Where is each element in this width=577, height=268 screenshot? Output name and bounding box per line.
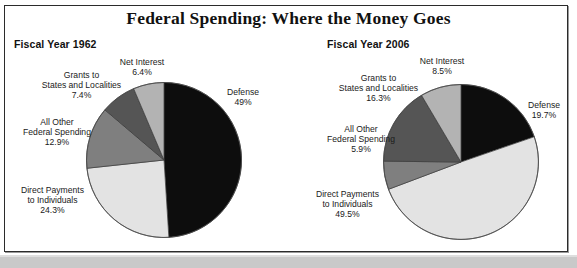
label-2006-direct-payments: Direct Payments to Individuals 49.5% — [303, 189, 392, 220]
label-1962-all-other: All Other Federal Spending 12.9% — [9, 117, 105, 148]
label-2006-net-interest-text: Net Interest — [420, 56, 464, 66]
label-2006-direct-payments-text-1: Direct Payments — [316, 189, 379, 199]
label-1962-direct-payments: Direct Payments to Individuals 24.3% — [8, 185, 97, 216]
figure-screenshot: Federal Spending: Where the Money Goes F… — [0, 0, 577, 268]
label-2006-grants: Grants to States and Localities 16.3% — [325, 73, 432, 104]
label-2006-defense: Defense 19.7% — [513, 100, 575, 120]
label-2006-grants-text-2: States and Localities — [325, 83, 432, 93]
label-1962-direct-payments-text-1: Direct Payments — [21, 185, 84, 195]
label-2006-grants-pct: 16.3% — [325, 93, 432, 103]
label-2006-all-other: All Other Federal Spending 5.9% — [313, 124, 409, 155]
label-1962-grants-text-2: States and Localities — [28, 80, 135, 90]
label-2006-defense-pct: 19.7% — [513, 110, 575, 120]
label-1962-net-interest-text: Net Interest — [120, 57, 164, 67]
label-1962-defense-text: Defense — [227, 87, 259, 97]
label-1962-direct-payments-text-2: to Individuals — [8, 195, 97, 205]
label-2006-direct-payments-pct: 49.5% — [303, 209, 392, 219]
label-1962-grants-text-1: Grants to — [64, 70, 99, 80]
label-1962-grants: Grants to States and Localities 7.4% — [28, 70, 135, 101]
label-2006-defense-text: Defense — [528, 100, 560, 110]
label-1962-defense: Defense 49% — [212, 87, 274, 107]
pie-1962-slice-1 — [87, 160, 169, 238]
label-2006-grants-text-1: Grants to — [361, 73, 396, 83]
panel-heading-2006: Fiscal Year 2006 — [327, 38, 410, 50]
label-1962-all-other-text-2: Federal Spending — [9, 127, 105, 137]
label-1962-all-other-pct: 12.9% — [9, 137, 105, 147]
label-2006-all-other-pct: 5.9% — [313, 144, 409, 154]
label-2006-all-other-text-2: Federal Spending — [313, 134, 409, 144]
label-1962-defense-pct: 49% — [212, 97, 274, 107]
bottom-gray-band-highlight — [0, 255, 577, 257]
label-2006-all-other-text-1: All Other — [344, 124, 377, 134]
panel-heading-1962: Fiscal Year 1962 — [14, 38, 97, 50]
label-2006-direct-payments-text-2: to Individuals — [303, 199, 392, 209]
page-title: Federal Spending: Where the Money Goes — [0, 8, 577, 29]
label-1962-all-other-text-1: All Other — [40, 117, 73, 127]
label-1962-grants-pct: 7.4% — [28, 90, 135, 100]
label-1962-direct-payments-pct: 24.3% — [8, 205, 97, 215]
